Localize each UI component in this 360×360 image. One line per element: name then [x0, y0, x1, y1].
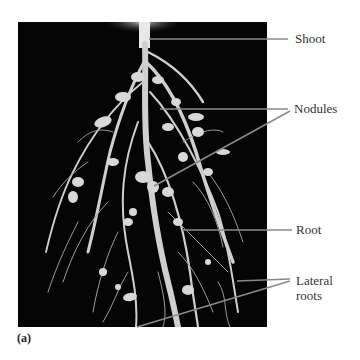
root-system-illustration	[18, 22, 267, 327]
root-nodule-photo	[18, 22, 267, 327]
label-nodules: Nodules	[294, 101, 337, 116]
label-shoot: Shoot	[295, 31, 325, 46]
label-lateral-roots-line1: Lateral	[296, 273, 333, 288]
label-root: Root	[296, 222, 321, 237]
label-lateral-roots-line2: roots	[296, 288, 333, 303]
panel-label: (a)	[17, 331, 31, 346]
label-lateral-roots: Lateral roots	[296, 273, 333, 303]
